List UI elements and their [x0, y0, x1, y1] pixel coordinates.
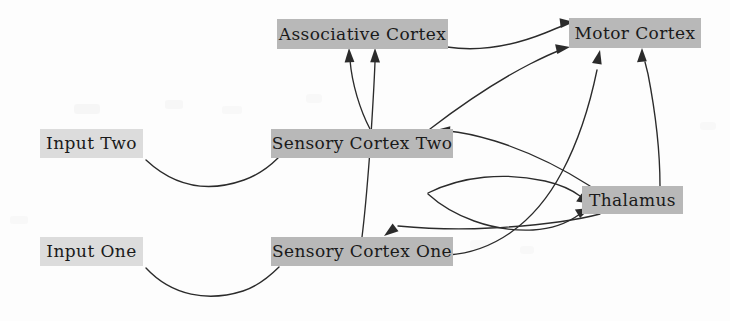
- diagram-canvas: Input Two Input One Associative Cortex S…: [0, 0, 730, 321]
- edge-input-one-to-sensory-one: [146, 267, 279, 296]
- node-sensory-cortex-one-label: Sensory Cortex One: [270, 243, 454, 260]
- node-thalamus-label: Thalamus: [587, 192, 678, 209]
- node-associative-cortex-label: Associative Cortex: [277, 26, 448, 43]
- node-motor-cortex-label: Motor Cortex: [573, 25, 698, 42]
- node-input-two[interactable]: Input Two: [40, 129, 143, 158]
- node-thalamus[interactable]: Thalamus: [582, 186, 683, 214]
- edge-associative-to-motor: [447, 18, 574, 48]
- node-associative-cortex[interactable]: Associative Cortex: [277, 19, 448, 49]
- node-sensory-cortex-two-label: Sensory Cortex Two: [270, 135, 455, 152]
- node-input-one[interactable]: Input One: [40, 237, 143, 266]
- edge-sensory-two-to-motor: [430, 44, 570, 129]
- edge-sensory-one-to-thalamus: [428, 194, 590, 230]
- node-sensory-cortex-one[interactable]: Sensory Cortex One: [271, 237, 453, 266]
- edge-thalamus-to-motor: [637, 48, 660, 186]
- edge-thalamus-to-sensory-one: [384, 214, 600, 236]
- node-input-one-label: Input One: [44, 243, 138, 260]
- node-sensory-cortex-two[interactable]: Sensory Cortex Two: [271, 129, 453, 158]
- edge-input-two-to-sensory-two: [146, 158, 278, 186]
- node-motor-cortex[interactable]: Motor Cortex: [569, 18, 701, 48]
- edge-sensory-two-to-associative: [345, 48, 370, 129]
- node-input-two-label: Input Two: [44, 135, 139, 152]
- edge-sensory-two-to-thalamus: [428, 176, 592, 204]
